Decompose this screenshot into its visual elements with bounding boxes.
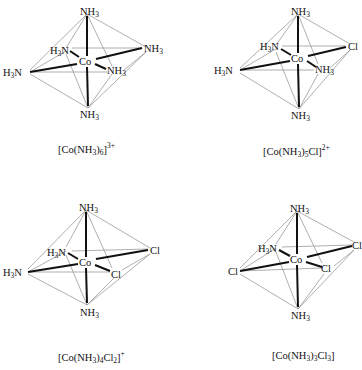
ligand-top: NH3 <box>80 6 99 19</box>
formula-label-4: [Co(NH3)3Cl3] <box>272 350 335 363</box>
ligand-front: NH3 <box>107 65 126 78</box>
complex-1-octahedron: NH3 Co H3N H3N NH3 NH3 NH3 <box>3 6 163 122</box>
ligand-left: H3N <box>3 67 22 80</box>
ligand-top: NH3 <box>290 203 309 216</box>
ligand-top: NH3 <box>291 6 310 19</box>
ligand-right: Cl <box>352 240 362 251</box>
ligand-bottom: NH3 <box>291 110 310 123</box>
ligand-right: Cl <box>348 41 358 52</box>
complex-4-octahedron: NH3 Co Cl H3N Cl Cl NH3 <box>228 203 362 323</box>
formula-label-1: [Co(NH3)6]3+ <box>58 141 115 157</box>
formula-label-2: [Co(NH3)5Cl]2+ <box>263 143 330 159</box>
ligand-bottom: NH3 <box>80 109 99 122</box>
octahedral-complexes-diagram: NH3 Co H3N H3N NH3 NH3 NH3 <box>0 0 362 370</box>
ligand-back: H3N <box>258 243 277 256</box>
ligand-back: H3N <box>47 247 66 260</box>
complex-2-octahedron: NH3 Co H3N H3N Cl NH3 NH3 <box>214 6 358 123</box>
ligand-right: Cl <box>150 245 160 256</box>
ligand-left: H3N <box>214 65 233 78</box>
ligand-bottom: NH3 <box>80 307 99 320</box>
center-co: Co <box>79 257 91 268</box>
ligand-bottom: NH3 <box>291 310 310 323</box>
ligand-left: H3N <box>3 267 22 280</box>
center-co: Co <box>291 53 303 64</box>
center-co: Co <box>290 254 302 265</box>
ligand-right: NH3 <box>144 43 163 56</box>
formula-label-3: [Co(NH3)4Cl2]+ <box>58 349 125 365</box>
ligand-front: Cl <box>321 263 331 274</box>
complex-3-octahedron: NH3 Co H3N H3N Cl Cl NH3 <box>3 202 160 320</box>
ligand-front: Cl <box>111 269 121 280</box>
ligand-left: Cl <box>228 266 238 277</box>
center-co: Co <box>79 56 91 67</box>
ligand-top: NH3 <box>79 202 98 215</box>
